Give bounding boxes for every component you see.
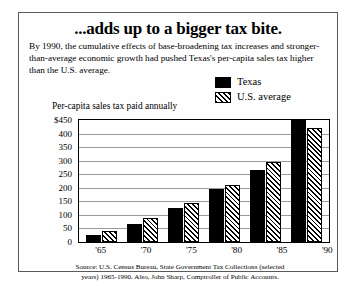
bar-texas[interactable] — [127, 224, 142, 242]
source-note: Source: U.S. Census Bureau, State Govern… — [49, 263, 311, 283]
bar-texas[interactable] — [86, 235, 101, 242]
bar-us-average[interactable] — [184, 203, 199, 242]
source-line-2: years) 1965-1990. Also, John Sharp, Comp… — [49, 273, 311, 283]
bar-texas[interactable] — [250, 170, 265, 242]
y-tick-label: 200 — [59, 183, 73, 193]
x-tick-label: '75 — [186, 245, 197, 255]
y-tick-label: 150 — [59, 196, 73, 206]
legend-label-texas: Texas — [237, 77, 261, 88]
y-tick-label: 100 — [59, 210, 73, 220]
y-tick-label: 250 — [59, 169, 73, 179]
bar-us-average[interactable] — [143, 218, 158, 242]
bar-us-average[interactable] — [102, 231, 117, 242]
bar-group — [86, 120, 117, 242]
y-tick-label: 400 — [59, 129, 73, 139]
x-tick-label: '70 — [141, 245, 152, 255]
y-axis-ticks: $450400350300250200150100500 — [39, 119, 75, 243]
y-tick-label: 300 — [59, 156, 73, 166]
y-axis-title: Per-capita sales tax paid annually — [52, 101, 177, 111]
legend-label-us-average: U.S. average — [237, 92, 291, 103]
solid-black-swatch-icon — [215, 77, 231, 88]
bar-us-average[interactable] — [266, 162, 281, 242]
bar-group — [127, 120, 158, 242]
bar-us-average[interactable] — [225, 185, 240, 242]
chart-area: $450400350300250200150100500 — [39, 119, 331, 243]
description-text: By 1990, the cumulative effects of base-… — [29, 40, 327, 76]
bar-groups — [79, 120, 329, 242]
legend-item-texas: Texas — [215, 75, 335, 90]
page-title: ...adds up to a bigger tax bite. — [25, 20, 331, 38]
diagonal-hatch-swatch-icon — [215, 92, 231, 103]
y-tick-label: 350 — [59, 142, 73, 152]
source-line-1: Source: U.S. Census Bureau, State Govern… — [76, 263, 285, 271]
x-tick-label: '90 — [322, 245, 333, 255]
bar-group — [250, 120, 281, 242]
chart-legend: Texas U.S. average — [215, 75, 335, 105]
bar-texas[interactable] — [209, 189, 224, 242]
plot-region — [78, 119, 330, 243]
x-tick-label: '65 — [95, 245, 106, 255]
legend-item-us-average: U.S. average — [215, 90, 335, 105]
x-tick-label: '85 — [277, 245, 288, 255]
y-tick-label: 0 — [68, 237, 73, 247]
x-axis-ticks: '65'70'75'80'85'90 — [78, 245, 350, 255]
x-tick-label: '80 — [231, 245, 242, 255]
y-tick-label: 50 — [63, 223, 72, 233]
infographic-panel: ...adds up to a bigger tax bite. By 1990… — [18, 12, 338, 272]
bar-group — [291, 120, 322, 242]
y-tick-label: $450 — [54, 115, 72, 125]
bar-texas[interactable] — [291, 120, 306, 242]
bar-texas[interactable] — [168, 208, 183, 242]
bar-us-average[interactable] — [307, 128, 322, 242]
bar-group — [168, 120, 199, 242]
bar-group — [209, 120, 240, 242]
